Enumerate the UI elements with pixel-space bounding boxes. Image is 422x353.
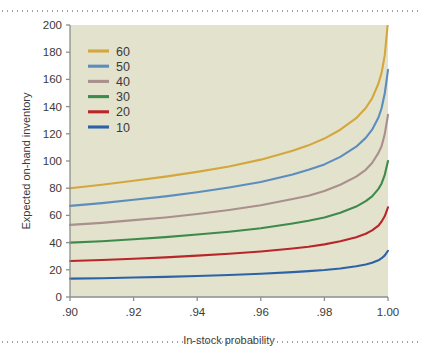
y-tick-label-200: 200 [43,19,62,31]
legend-label-50: 50 [116,60,130,74]
y-tick-label-40: 40 [49,237,62,249]
line-chart: 020406080100120140160180200.90.92.94.96.… [0,0,422,353]
dotted-rule-bottom [0,341,422,343]
y-tick-label-180: 180 [43,46,62,58]
y-axis-title: Expected on-hand inventory [20,92,32,229]
y-tick-label-120: 120 [43,128,62,140]
legend-label-30: 30 [116,90,130,104]
x-tick-label-.98: .98 [316,306,332,318]
x-tick-label-.90: .90 [62,306,78,318]
y-tick-label-100: 100 [43,155,62,167]
figure-container: 020406080100120140160180200.90.92.94.96.… [0,0,422,353]
y-tick-label-0: 0 [56,291,62,303]
y-tick-label-60: 60 [49,209,62,221]
x-tick-label-1.00: 1.00 [377,306,399,318]
dotted-rule-top [0,10,422,12]
x-axis-title: In-stock probability [183,334,275,346]
y-tick-label-80: 80 [49,182,62,194]
x-tick-label-.92: .92 [126,306,142,318]
legend-label-60: 60 [116,45,130,59]
x-tick-label-.96: .96 [253,306,269,318]
x-tick-label-.94: .94 [189,306,206,318]
y-tick-label-160: 160 [43,73,62,85]
legend-label-10: 10 [116,121,130,135]
legend-label-40: 40 [116,75,130,89]
y-tick-label-20: 20 [49,264,62,276]
y-tick-label-140: 140 [43,101,62,113]
legend-label-20: 20 [116,105,130,119]
